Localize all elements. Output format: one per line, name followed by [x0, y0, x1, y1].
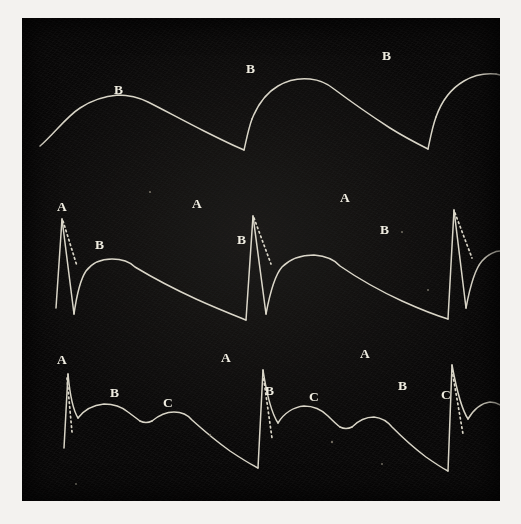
dust-speck [331, 441, 333, 443]
wave-label-top-b-3: B [382, 48, 392, 63]
dust-speck [149, 191, 151, 193]
photographic-plate: BBBABABABABCABCABC [22, 18, 500, 501]
middle-trace-upstroke-3 [448, 210, 454, 319]
wave-label-bottom-b-5: B [265, 383, 275, 398]
top-trace-upstroke-1 [244, 119, 252, 150]
wave-label-bottom-a-7: A [360, 346, 370, 361]
wave-label-bottom-a-4: A [221, 350, 231, 365]
figure-root: BBBABABABABCABCABC [0, 0, 521, 524]
wave-label-bottom-c-3: C [163, 395, 173, 410]
pulse-tracings-chart: BBBABABABABCABCABC [22, 18, 500, 501]
bottom-trace-b-wave-3 [468, 402, 500, 419]
bottom-trace-upstroke-2 [258, 370, 263, 468]
wave-label-bottom-b-2: B [110, 385, 120, 400]
bottom-trace-c-wave-1 [152, 412, 258, 468]
wave-label-bottom-a-1: A [57, 352, 67, 367]
top-trace-cycle-2 [252, 79, 428, 149]
wave-label-middle-a-1: A [57, 199, 67, 214]
bottom-trace-upstroke-3 [448, 365, 452, 471]
bottom-trace-notch-1 [140, 421, 152, 423]
top-trace-tail [496, 74, 500, 87]
bottom-trace-notch-2 [340, 427, 352, 429]
middle-trace-upstroke-1 [56, 219, 62, 308]
wave-label-bottom-c-6: C [309, 389, 319, 404]
middle-pulse-trace [56, 210, 500, 320]
wave-label-middle-b-4: B [237, 232, 247, 247]
middle-trace-a-downstroke-1 [62, 219, 74, 314]
top-trace-upstroke-2 [428, 117, 436, 149]
dust-speck [381, 463, 383, 465]
wave-label-middle-b-2: B [95, 237, 105, 252]
dust-speck [427, 289, 429, 291]
dust-speck [75, 483, 77, 485]
top-trace-cycle-3 [436, 74, 496, 117]
bottom-trace-c-wave-2 [352, 417, 448, 471]
dust-speck [209, 434, 211, 436]
wave-label-bottom-c-9: C [441, 387, 451, 402]
top-trace-cycle-1 [40, 95, 244, 150]
bottom-trace-b-wave-1 [78, 404, 140, 421]
middle-trace-b-wave-1 [74, 259, 246, 320]
middle-trace-a-downstroke-3 [454, 210, 466, 308]
bottom-trace-a-downstroke-3 [452, 365, 468, 419]
wave-label-top-b-1: B [114, 82, 124, 97]
wave-label-middle-a-5: A [340, 190, 350, 205]
wave-label-middle-a-3: A [192, 196, 202, 211]
wave-label-bottom-b-8: B [398, 378, 408, 393]
dust-speck [401, 231, 403, 233]
wave-label-middle-b-6: B [380, 222, 390, 237]
top-pulse-trace [40, 74, 500, 150]
wave-label-top-b-2: B [246, 61, 256, 76]
bottom-pulse-trace [64, 365, 500, 471]
bottom-trace-b-wave-2 [278, 406, 340, 427]
middle-trace-b-wave-2 [266, 255, 448, 319]
middle-trace-upstroke-2 [246, 216, 253, 320]
middle-trace-b-wave-3 [466, 251, 500, 308]
middle-trace-a-downstroke-2 [253, 216, 266, 314]
